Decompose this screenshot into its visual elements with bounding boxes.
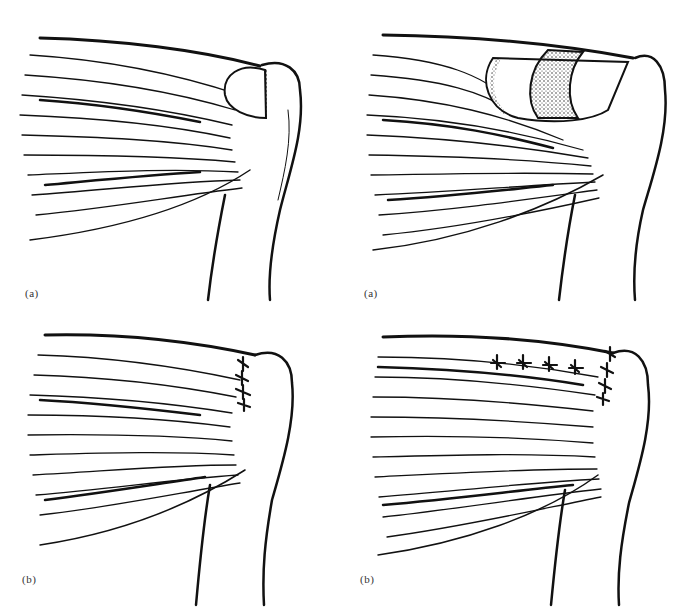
panel-label: (b)	[22, 573, 36, 585]
shoulder-defect-large-illustration	[343, 0, 683, 305]
panel-label: (a)	[25, 287, 39, 299]
shoulder-repair-side-to-side-sutures-illustration	[343, 305, 683, 609]
panel-label: (b)	[360, 573, 374, 585]
panel-top-left: (a)	[0, 0, 340, 305]
panel-bottom-left: (b)	[0, 305, 340, 609]
panel-label: (a)	[364, 287, 378, 299]
shoulder-defect-small-illustration	[0, 0, 340, 305]
panel-bottom-right: (b)	[343, 305, 683, 609]
shoulder-repair-vertical-sutures-illustration	[0, 305, 340, 609]
panel-top-right: (a)	[343, 0, 683, 305]
